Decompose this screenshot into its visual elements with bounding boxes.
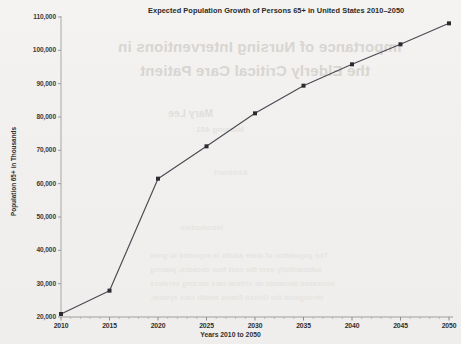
x-axis-tick-label: 2030 — [238, 322, 272, 329]
y-axis-title: Population 65+ in Thousands — [10, 107, 17, 237]
x-axis-tick-label: 2050 — [432, 322, 461, 329]
x-axis-tick-label: 2040 — [335, 322, 369, 329]
y-axis-tick-label: 40,000 — [16, 246, 56, 253]
x-axis-tick-label: 2045 — [384, 322, 418, 329]
y-axis-tick-label: 50,000 — [16, 213, 56, 220]
y-axis-tick-label: 90,000 — [16, 80, 56, 87]
axes — [58, 16, 453, 321]
y-axis-tick-label: 100,000 — [16, 46, 56, 53]
y-axis-tick-label: 20,000 — [16, 313, 56, 320]
y-axis-tick-label: 110,000 — [16, 13, 56, 20]
y-axis-tick-label: 80,000 — [16, 113, 56, 120]
x-axis-tick-label: 2035 — [287, 322, 321, 329]
data-series — [59, 21, 451, 316]
plot-area — [0, 0, 461, 344]
y-axis-tick-label: 70,000 — [16, 146, 56, 153]
y-axis-tick-label: 30,000 — [16, 280, 56, 287]
x-axis-tick-label: 2025 — [190, 322, 224, 329]
x-axis-tick-label: 2015 — [93, 322, 127, 329]
x-axis-title: Years 2010 to 2050 — [0, 331, 461, 338]
y-axis-tick-label: 60,000 — [16, 180, 56, 187]
population-growth-line-chart: Importance of Nursing Interventions in t… — [0, 0, 461, 344]
x-axis-tick-label: 2010 — [44, 322, 78, 329]
x-axis-tick-label: 2020 — [141, 322, 175, 329]
